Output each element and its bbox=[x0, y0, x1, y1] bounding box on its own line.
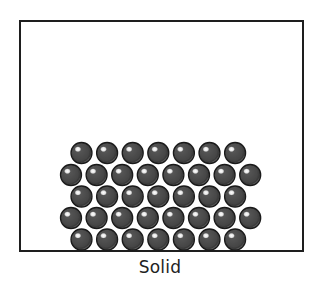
particle bbox=[189, 208, 210, 229]
particle bbox=[173, 143, 194, 164]
diagram-caption: Solid bbox=[0, 257, 320, 277]
particle bbox=[214, 165, 235, 186]
particle bbox=[112, 208, 133, 229]
particle bbox=[61, 208, 82, 229]
particle bbox=[71, 186, 92, 207]
particle bbox=[61, 165, 82, 186]
particle bbox=[71, 143, 92, 164]
particle bbox=[148, 186, 169, 207]
particle bbox=[97, 229, 118, 250]
particle bbox=[199, 186, 220, 207]
particle bbox=[71, 229, 92, 250]
particle bbox=[199, 143, 220, 164]
particle bbox=[214, 208, 235, 229]
particle bbox=[225, 229, 246, 250]
particle bbox=[189, 165, 210, 186]
particle bbox=[199, 229, 220, 250]
particle bbox=[163, 208, 184, 229]
particle bbox=[225, 186, 246, 207]
particle bbox=[97, 186, 118, 207]
particle bbox=[163, 165, 184, 186]
particle-lattice bbox=[0, 0, 320, 292]
particle bbox=[148, 229, 169, 250]
particle bbox=[173, 186, 194, 207]
particle bbox=[122, 186, 143, 207]
particle bbox=[225, 143, 246, 164]
particle bbox=[122, 229, 143, 250]
particle bbox=[137, 165, 158, 186]
particle bbox=[97, 143, 118, 164]
particle bbox=[148, 143, 169, 164]
particle bbox=[173, 229, 194, 250]
particle bbox=[86, 165, 107, 186]
particle bbox=[122, 143, 143, 164]
particle bbox=[240, 165, 261, 186]
particle bbox=[112, 165, 133, 186]
particle bbox=[137, 208, 158, 229]
particle bbox=[86, 208, 107, 229]
particle bbox=[240, 208, 261, 229]
